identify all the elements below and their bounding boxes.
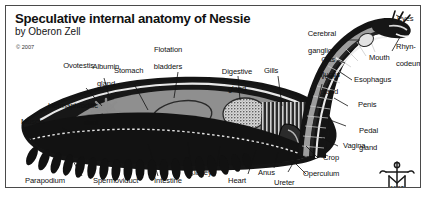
label-hermaphroditic-duct: Hermaphroditic duct: [12, 94, 98, 136]
label-vagina: Vagina: [343, 142, 365, 150]
label-esophagus: Esophagus: [354, 76, 391, 84]
label-parapodium: Parapodium: [25, 177, 65, 185]
label-gas-vent: Gas vent: [301, 48, 335, 90]
anatomy-figure-panel: Speculative internal anatomy of Nessie b…: [5, 5, 421, 188]
label-kidney: Kidney: [189, 169, 212, 177]
label-albumin-gland: Albumin gland: [78, 55, 126, 97]
label-spermoviduct: Spermoviduct: [93, 177, 138, 185]
label-operculum: Operculum: [303, 170, 339, 178]
label-heart: Heart: [228, 177, 246, 185]
label-eyes: Eyes: [397, 15, 413, 23]
label-rhyncodeum: Rhyn- codeum: [388, 35, 421, 77]
signature-year: 50|07: [377, 185, 417, 188]
label-flotation-bladders: Flotation bladders: [137, 38, 191, 80]
artist-monogram-icon: [377, 159, 417, 188]
byline: by Oberon Zell: [15, 26, 81, 37]
label-intestine: Intestine: [154, 177, 182, 185]
label-mouth: Mouth: [369, 54, 390, 62]
label-digestive-gland: Digestive gland: [209, 60, 257, 102]
label-anus: Anus: [258, 169, 275, 177]
page-title: Speculative internal anatomy of Nessie: [15, 11, 250, 26]
label-penis: Penis: [358, 101, 377, 109]
label-gills: Gills: [264, 67, 278, 75]
label-muscle: Muscle: [21, 118, 44, 126]
label-ureter: Ureter: [274, 179, 295, 187]
label-crop: Crop: [323, 154, 339, 162]
copyright-notice: © 2007: [16, 44, 34, 50]
